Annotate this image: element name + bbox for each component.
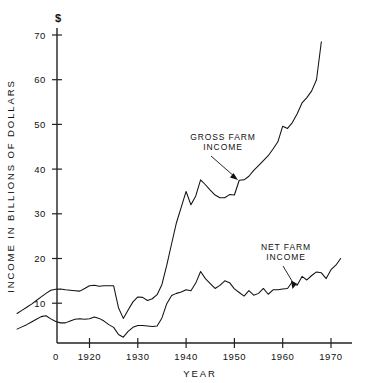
x-tick-label-1950: 1950	[223, 351, 247, 362]
gross-farm-income-annotation: GROSS FARM INCOME	[190, 132, 256, 180]
net-annotation-line-1: NET FARM	[261, 242, 311, 252]
y-axis-title: INCOME IN BILLIONS OF DOLLARS	[5, 79, 16, 292]
gross-annotation-line-1: GROSS FARM	[190, 132, 256, 142]
series-group	[17, 42, 341, 337]
y-tick-label-40: 40	[34, 164, 46, 175]
y-tick-label-20: 20	[34, 253, 46, 264]
y-tick-label-50: 50	[34, 119, 46, 130]
net-farm-income-line	[17, 259, 341, 338]
net-annotation-line-2: INCOME	[266, 252, 305, 262]
x-tick-label-1940: 1940	[174, 351, 198, 362]
axes-group	[57, 28, 352, 343]
y-tick-label-70: 70	[34, 30, 46, 41]
x-tick-label-1960: 1960	[271, 351, 295, 362]
y-tick-label-10: 10	[34, 298, 46, 309]
gross-annotation-leader-line	[211, 156, 235, 177]
net-farm-income-annotation: NET FARM INCOME	[261, 242, 311, 289]
currency-unit-label: $	[55, 12, 61, 24]
gross-annotation-line-2: INCOME	[203, 142, 242, 152]
farm-income-chart-figure: 70 60 50 40 30 20 10 $ 0 1920 1930 1940 …	[0, 0, 365, 383]
x-tick-label-1930: 1930	[126, 351, 150, 362]
chart-canvas: 70 60 50 40 30 20 10 $ 0 1920 1930 1940 …	[0, 0, 365, 383]
y-tick-label-60: 60	[34, 74, 46, 85]
x-tick-label-origin: 0	[53, 351, 59, 362]
x-tick-label-1920: 1920	[78, 351, 102, 362]
x-tick-label-1970: 1970	[319, 351, 343, 362]
x-axis-title: YEAR	[183, 368, 216, 379]
y-tick-label-30: 30	[34, 208, 46, 219]
gross-farm-income-line	[17, 42, 321, 319]
